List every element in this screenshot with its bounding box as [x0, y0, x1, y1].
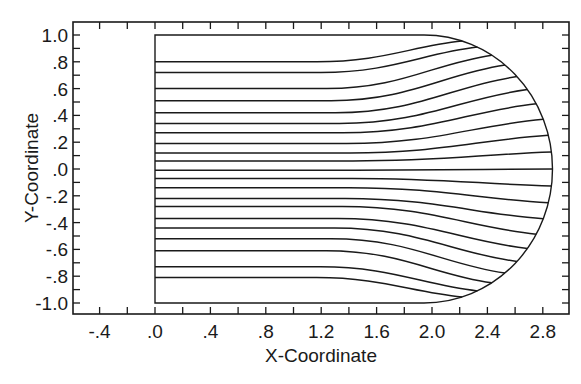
streamline [155, 188, 548, 203]
y-tick-label: -1.0 [35, 293, 68, 314]
x-tick-label: -.4 [89, 321, 112, 342]
x-tick-label: .4 [202, 321, 218, 342]
streamline [155, 47, 477, 72]
x-axis-title: X-Coordinate [265, 345, 377, 366]
streamline [155, 198, 543, 218]
x-tick-label: 2.8 [530, 321, 556, 342]
streamline [155, 41, 462, 62]
plot-frame [73, 22, 569, 314]
y-axis-title: Y-Coordinate [21, 113, 42, 223]
y-tick-label: .8 [52, 52, 68, 73]
x-tick-label: 2.4 [474, 321, 501, 342]
streamline [155, 267, 477, 291]
streamline [155, 77, 517, 113]
x-tick-label: 1.6 [363, 321, 389, 342]
streamlines [155, 41, 552, 297]
streamline [155, 278, 462, 297]
streamline [155, 90, 527, 124]
y-tick-label: -.2 [46, 186, 68, 207]
streamline [155, 65, 505, 101]
streamline [155, 228, 517, 262]
streamline-chart: -.4.0.4.81.21.62.02.42.8 1.0.8.6.4.2.0-.… [0, 0, 581, 384]
y-tick-label: .2 [52, 132, 68, 153]
y-tick-label: 1.0 [42, 25, 68, 46]
y-tick-label: .6 [52, 79, 68, 100]
x-tick-label: 2.0 [419, 321, 445, 342]
axis-ticks [73, 22, 569, 314]
y-tick-label: -.4 [46, 213, 69, 234]
x-tick-labels: -.4.0.4.81.21.62.02.42.8 [89, 321, 557, 342]
x-tick-label: .8 [258, 321, 274, 342]
y-tick-label: .0 [52, 159, 68, 180]
y-tick-label: -.6 [46, 239, 68, 260]
streamline [155, 239, 505, 273]
x-tick-label: 1.2 [308, 321, 334, 342]
streamline [155, 178, 551, 186]
x-tick-label: .0 [147, 321, 163, 342]
streamline [155, 169, 552, 170]
y-tick-label: .4 [52, 105, 68, 126]
y-tick-label: -.8 [46, 266, 68, 287]
